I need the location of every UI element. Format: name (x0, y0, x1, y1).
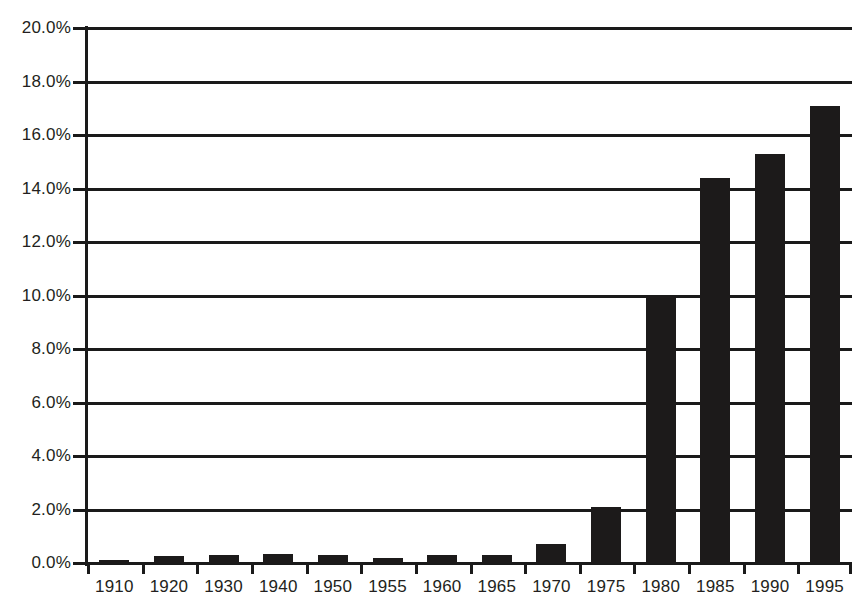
y-axis-tick-label: 6.0% (5, 394, 71, 411)
gridline (87, 402, 852, 405)
x-axis-tick-label: 1955 (360, 578, 415, 595)
x-axis-tick-label: 1920 (142, 578, 197, 595)
x-axis-tick (306, 563, 309, 574)
gridline (87, 509, 852, 512)
bar (646, 296, 676, 564)
y-axis-tick (73, 81, 85, 84)
x-axis-tick (524, 563, 527, 574)
x-axis-tick (87, 563, 90, 574)
bar (810, 106, 840, 563)
x-axis-tick-label: 1995 (797, 578, 852, 595)
y-axis-tick (73, 348, 85, 351)
bar (209, 555, 239, 563)
y-axis-tick-label: 14.0% (5, 180, 71, 197)
y-axis-tick-label: 10.0% (5, 287, 71, 304)
y-axis-tick-label: 0.0% (5, 554, 71, 571)
y-axis-tick-label: 20.0% (5, 19, 71, 36)
x-axis-tick (743, 563, 746, 574)
bar (700, 178, 730, 563)
x-axis-tick-label: 1940 (251, 578, 306, 595)
y-axis-tick (73, 562, 85, 565)
x-axis-tick-label: 1975 (579, 578, 634, 595)
gridline (87, 348, 852, 351)
plot-area (87, 28, 852, 563)
bar (536, 544, 566, 563)
gridline (87, 188, 852, 191)
gridline (87, 134, 852, 137)
x-axis-tick-label: 1970 (524, 578, 579, 595)
y-axis-tick-label: 16.0% (5, 126, 71, 143)
y-axis-tick-label: 4.0% (5, 447, 71, 464)
y-axis-tick (73, 509, 85, 512)
bar (318, 555, 348, 563)
y-axis-labels: 0.0%2.0%4.0%6.0%8.0%10.0%12.0%14.0%16.0%… (0, 0, 71, 614)
bar-chart: 0.0%2.0%4.0%6.0%8.0%10.0%12.0%14.0%16.0%… (0, 0, 867, 614)
y-axis-tick (73, 241, 85, 244)
y-axis-tick-label: 12.0% (5, 233, 71, 250)
x-axis-tick (849, 563, 852, 574)
x-axis-ticks (87, 563, 852, 575)
x-axis-tick (196, 563, 199, 574)
x-axis-labels: 1910192019301940195019551960196519701975… (87, 578, 852, 606)
y-axis-tick (73, 188, 85, 191)
x-axis-tick-label: 1960 (415, 578, 470, 595)
y-axis-tick (73, 134, 85, 137)
bar (427, 555, 457, 563)
x-axis-tick-label: 1950 (306, 578, 361, 595)
x-axis-tick-label: 1910 (87, 578, 142, 595)
bar (263, 554, 293, 563)
y-axis-tick (73, 295, 85, 298)
x-axis-tick-label: 1990 (743, 578, 798, 595)
x-axis-tick (579, 563, 582, 574)
x-axis-tick (415, 563, 418, 574)
y-axis-tick-label: 2.0% (5, 501, 71, 518)
y-axis-tick (73, 455, 85, 458)
gridline (87, 455, 852, 458)
y-axis-tick-label: 8.0% (5, 340, 71, 357)
x-axis-tick (633, 563, 636, 574)
x-axis-tick (470, 563, 473, 574)
x-axis-tick (251, 563, 254, 574)
x-axis-tick (688, 563, 691, 574)
x-axis-tick-label: 1930 (196, 578, 251, 595)
y-axis-tick (73, 27, 85, 30)
gridline (87, 27, 852, 30)
y-axis-tick-label: 18.0% (5, 73, 71, 90)
gridline (87, 295, 852, 298)
x-axis-tick-label: 1980 (633, 578, 688, 595)
gridline (87, 81, 852, 84)
gridline (87, 241, 852, 244)
y-axis-tick (73, 402, 85, 405)
x-axis-tick (142, 563, 145, 574)
x-axis-tick-label: 1965 (470, 578, 525, 595)
x-axis-tick (360, 563, 363, 574)
bar (755, 154, 785, 563)
bar (154, 556, 184, 563)
x-axis-tick (797, 563, 800, 574)
bar (482, 555, 512, 563)
bar (591, 507, 621, 563)
x-axis-tick-label: 1985 (688, 578, 743, 595)
